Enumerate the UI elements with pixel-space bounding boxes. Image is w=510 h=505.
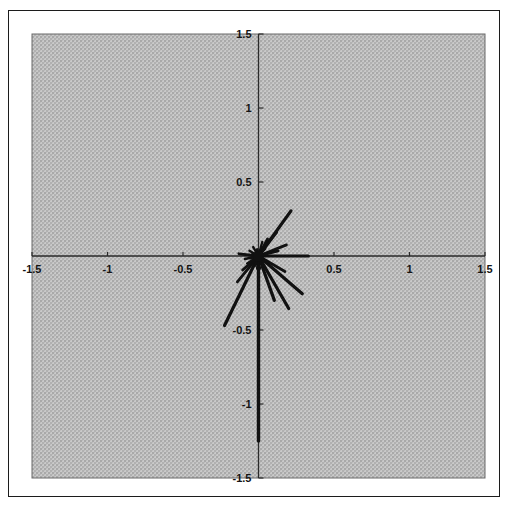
y-tick-label: -1.5	[233, 472, 252, 484]
plot-wrapper: -1.5-1-0.50.511.5-1.5-1-0.50.511.5	[0, 0, 510, 505]
x-tick-label: -1.5	[23, 263, 42, 275]
x-tick-label: -0.5	[174, 263, 193, 275]
x-tick-label: 1.5	[477, 263, 492, 275]
y-tick-label: 0.5	[236, 176, 251, 188]
data-point-marker	[256, 265, 261, 270]
figure-root: -1.5-1-0.50.511.5-1.5-1-0.50.511.5	[0, 0, 510, 505]
x-tick-label: -1	[103, 263, 113, 275]
x-tick-label: 1	[406, 263, 412, 275]
origin-cluster	[253, 251, 264, 262]
y-tick-label: 1.5	[236, 28, 251, 40]
x-tick-label: 0.5	[326, 263, 341, 275]
y-tick-label: 1	[245, 102, 251, 114]
compass-plot-svg: -1.5-1-0.50.511.5-1.5-1-0.50.511.5	[0, 0, 510, 505]
y-tick-label: -0.5	[233, 324, 252, 336]
y-tick-label: -1	[242, 398, 252, 410]
